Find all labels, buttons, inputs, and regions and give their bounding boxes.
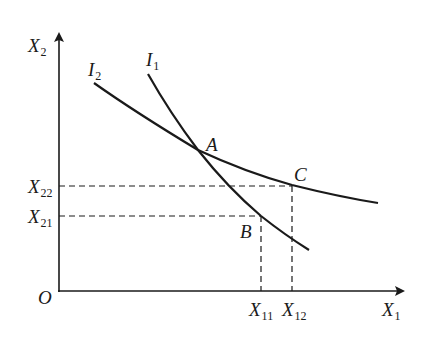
- tick-x21-label: X21: [28, 207, 53, 229]
- curve-i1: [148, 74, 309, 250]
- curve-i1-label: I1: [146, 50, 159, 72]
- point-c-label: C: [294, 165, 307, 184]
- tick-x12-label: X12: [282, 300, 307, 322]
- tick-x22-label: X22: [28, 177, 53, 199]
- y-axis-label: X2: [28, 36, 47, 58]
- indifference-curve-diagram: [0, 0, 430, 350]
- curve-i2: [94, 83, 378, 203]
- origin-label: O: [38, 288, 52, 307]
- x-axis-label: X1: [382, 300, 401, 322]
- tick-x11-label: X11: [249, 300, 273, 322]
- curve-i2-label: I2: [88, 60, 101, 82]
- point-a-label: A: [206, 135, 218, 154]
- point-b-label: B: [240, 222, 252, 241]
